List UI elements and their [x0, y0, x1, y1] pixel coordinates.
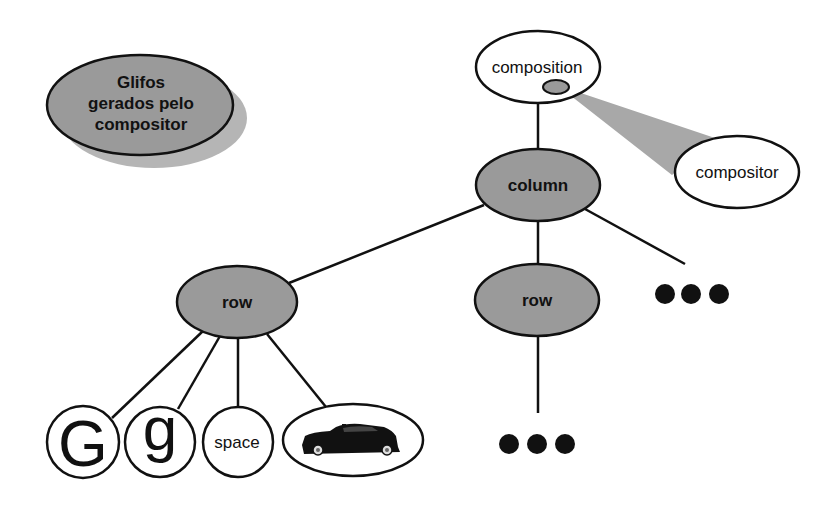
legend-line-1: Glifos [117, 73, 165, 92]
dot-icon [709, 284, 729, 304]
row-left-label: row [222, 293, 253, 312]
row-middle-label: row [522, 291, 553, 310]
node-row-left[interactable]: row [177, 266, 297, 338]
edge-row-car [267, 334, 326, 407]
edge-row-g [178, 336, 220, 409]
dot-icon [555, 434, 575, 454]
glyph-space-label: space [214, 433, 259, 452]
legend: Glifos gerados pelo compositor [47, 55, 247, 168]
legend-line-3: compositor [95, 115, 188, 134]
dot-icon [527, 434, 547, 454]
composition-compositor-marker [543, 80, 569, 94]
glyph-G-label: G [58, 408, 108, 480]
legend-line-2: gerados pelo [88, 94, 194, 113]
ellipsis-bottom [499, 434, 575, 454]
node-column[interactable]: column [476, 149, 600, 221]
glyph-node-space[interactable]: space [203, 407, 273, 477]
glyph-node-car[interactable] [283, 404, 423, 476]
glyph-node-G[interactable]: G [47, 406, 119, 480]
column-label: column [508, 176, 568, 195]
glyph-g-label: g [143, 394, 177, 463]
glyph-node-g[interactable]: g [125, 394, 195, 477]
dot-icon [655, 284, 675, 304]
ellipsis-right [655, 284, 729, 304]
edge-column-ellipsis [585, 209, 685, 264]
node-composition[interactable]: composition [476, 31, 600, 103]
compositor-label: compositor [695, 163, 778, 182]
node-row-middle[interactable]: row [475, 264, 599, 336]
composition-label: composition [492, 58, 583, 77]
dot-icon [499, 434, 519, 454]
node-compositor[interactable]: compositor [675, 136, 799, 208]
dot-icon [681, 284, 701, 304]
edge-column-row-left [289, 205, 484, 283]
glyph-tree-diagram: Glifos gerados pelo compositor compositi… [0, 0, 838, 507]
